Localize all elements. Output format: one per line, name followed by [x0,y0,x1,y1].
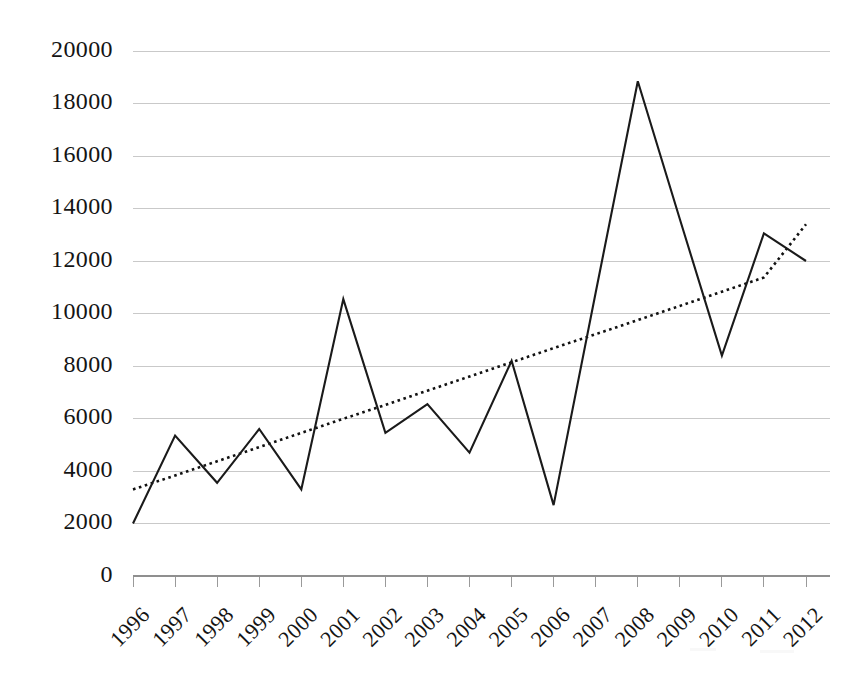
y-tick-label: 8000 [63,351,113,377]
y-tick-label: 18000 [51,88,113,114]
y-tick-label: 14000 [51,193,113,219]
y-tick-label: 4000 [63,456,113,482]
scan-artifact-left [690,648,716,651]
scan-artifact-right [760,650,794,653]
chart-figure: Line chart of annual values from 1996 to… [0,0,858,674]
y-tick-label: 0 [101,561,113,587]
y-tick-label: 10000 [51,298,113,324]
y-tick-label: 2000 [63,508,113,534]
line-chart-svg: Line chart of annual values from 1996 to… [0,0,858,674]
y-tick-label: 6000 [63,403,113,429]
y-tick-label: 16000 [51,141,113,167]
y-tick-label: 12000 [51,246,113,272]
y-tick-label: 20000 [51,36,113,62]
